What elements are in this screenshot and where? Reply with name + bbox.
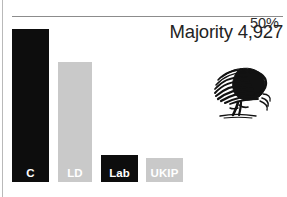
bar-label-lab: Lab xyxy=(101,167,138,179)
bar-ld: LD xyxy=(58,62,92,182)
bar-ukip: UKIP xyxy=(146,158,183,182)
bar-label-ukip: UKIP xyxy=(146,167,183,179)
bar-label-c: C xyxy=(12,167,49,179)
oak-tree-logo xyxy=(206,58,274,122)
bar-c: C xyxy=(12,29,49,182)
election-result-bar-chart: 50% Majority 4,927 C LD Lab UKIP xyxy=(0,0,287,197)
bar-lab: Lab xyxy=(101,155,138,182)
bar-label-ld: LD xyxy=(58,167,92,179)
